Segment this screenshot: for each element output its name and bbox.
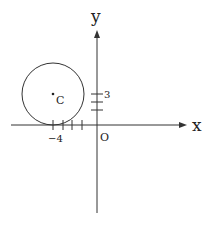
x-axis-label: x (192, 115, 202, 135)
y-axis-arrow-icon (94, 30, 100, 38)
y-tick-label: 3 (104, 89, 110, 100)
y-axis-label: y (90, 6, 101, 26)
x-tick-label: −4 (48, 133, 63, 144)
x-axis-arrow-icon (179, 122, 187, 128)
center-point (52, 93, 55, 96)
coordinate-diagram: y x O C −4 3 (0, 0, 209, 228)
origin-label: O (100, 131, 109, 144)
center-label: C (56, 94, 64, 107)
